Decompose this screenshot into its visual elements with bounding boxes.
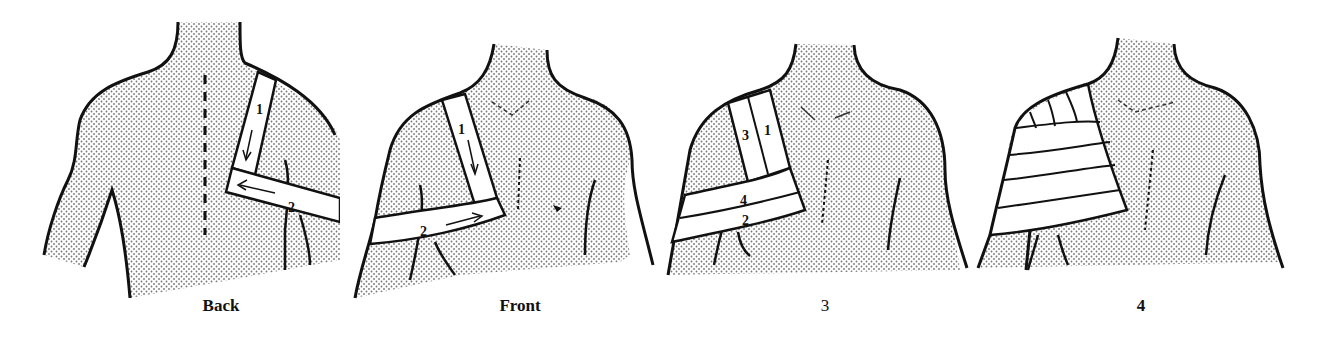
caption-front: Front [460,296,580,316]
step-4-torso-illustration [970,0,1319,338]
front-torso-illustration: 1 2 [340,0,665,338]
panel-front: 1 2 Front [340,0,665,338]
step-3-torso-illustration: 3 1 4 2 [660,0,980,338]
strip-label-2: 2 [288,200,295,215]
panel-step-4: 4 [970,0,1319,338]
strip-label-2: 2 [420,224,427,239]
strip-label-2: 2 [742,213,749,228]
panel-step-3: 3 1 4 2 3 [660,0,980,338]
strip-label-1: 1 [256,102,263,117]
strip-label-1: 1 [764,123,771,138]
strip-label-1: 1 [458,122,465,137]
strip-label-3: 3 [742,128,749,143]
caption-step-3: 3 [765,296,885,316]
caption-step-4: 4 [1081,296,1201,316]
panel-back: 1 2 Back [0,0,340,338]
strip-label-4: 4 [740,193,747,208]
back-torso-illustration: 1 2 [0,0,340,338]
caption-back: Back [161,296,281,316]
